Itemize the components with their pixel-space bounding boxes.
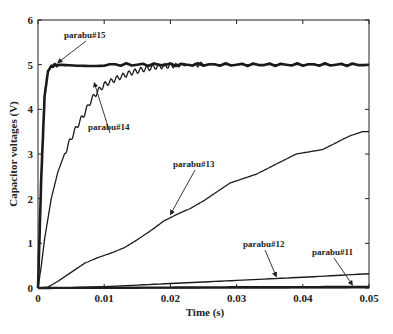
series-parabu-13 xyxy=(38,132,369,288)
x-tick-label: 0 xyxy=(35,292,41,304)
x-axis-label: Time (s) xyxy=(186,306,225,319)
y-axis-label: Capacitor voltages (V) xyxy=(7,101,20,207)
annotation-parabu-15: parabu#15 xyxy=(64,30,106,40)
y-tick-label: 2 xyxy=(28,193,34,205)
x-tick-label: 0.05 xyxy=(359,292,379,304)
y-tick-label: 0 xyxy=(28,282,34,294)
annotation-parabu-12: parabu#12 xyxy=(243,239,285,249)
y-tick-label: 5 xyxy=(28,59,34,71)
x-tick-label: 0.02 xyxy=(161,292,181,304)
annotation-arrow xyxy=(334,258,352,285)
y-tick-label: 4 xyxy=(28,103,34,115)
annotation-arrow xyxy=(58,41,86,63)
y-tick-label: 1 xyxy=(28,237,34,249)
annotation-parabu-11: parabu#11 xyxy=(312,247,354,257)
y-tick-label: 6 xyxy=(28,14,34,26)
x-tick-label: 0.04 xyxy=(293,292,313,304)
x-tick-label: 0.01 xyxy=(95,292,114,304)
capacitor-voltage-chart: 00.010.020.030.040.050123456 parabu#15pa… xyxy=(0,0,393,334)
annotation-arrow xyxy=(265,250,276,277)
annotations: parabu#15parabu#14parabu#13parabu#12para… xyxy=(58,30,354,285)
x-tick-label: 0.03 xyxy=(227,292,247,304)
annotation-parabu-13: parabu#13 xyxy=(173,159,215,169)
y-tick-label: 3 xyxy=(28,148,34,160)
series-parabu-12 xyxy=(38,274,369,288)
